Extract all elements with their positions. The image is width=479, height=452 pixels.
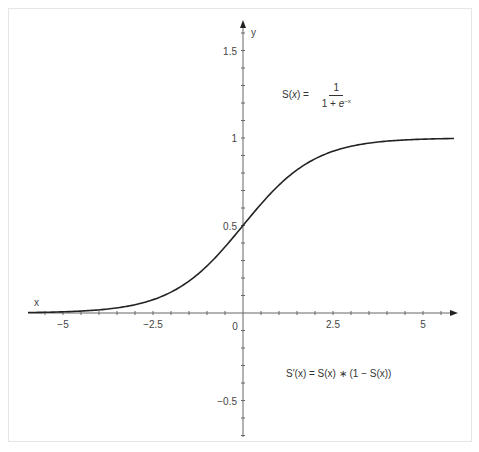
sigmoid-formula: S(x) = 1 1 + e−x: [282, 82, 351, 109]
formula-lhs: S(x) =: [282, 89, 309, 100]
y-axis-arrow-icon: [240, 20, 246, 28]
formula-numerator: 1: [329, 82, 343, 96]
x-tick-label: −2.5: [143, 319, 163, 330]
y-tick-label: 0.5: [223, 221, 237, 232]
x-axis-label: x: [34, 297, 39, 308]
derivative-formula: S′(x) = S(x) ∗ (1 − S(x)): [286, 368, 391, 379]
formula-denominator: 1 + e−x: [322, 96, 351, 109]
x-tick-label: 0: [232, 321, 238, 332]
x-tick-label: 2.5: [326, 319, 340, 330]
y-tick-label: −0.5: [217, 396, 237, 407]
y-axis-label: y: [251, 27, 256, 38]
sigmoid-chart: −5−2.502.55−0.50.511.5 x y: [0, 0, 479, 452]
x-tick-label: 5: [420, 319, 426, 330]
formula-fraction: 1 1 + e−x: [322, 82, 351, 109]
y-tick-label: 1.5: [223, 46, 237, 57]
axes: [28, 20, 458, 437]
y-tick-label: 1: [231, 133, 237, 144]
x-axis-arrow-icon: [450, 310, 458, 316]
x-tick-label: −5: [57, 319, 69, 330]
